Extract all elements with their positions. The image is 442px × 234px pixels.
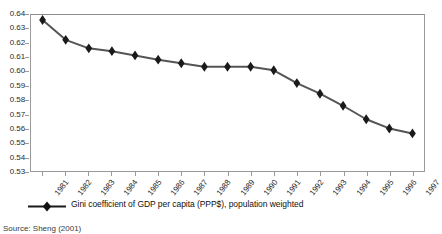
x-axis-tick-mark [320, 172, 321, 176]
x-axis-tick-mark [413, 172, 414, 176]
data-point-marker [109, 46, 116, 56]
data-point-marker [270, 65, 277, 75]
x-axis-tick-mark [181, 172, 182, 176]
x-axis-tick-mark [297, 172, 298, 176]
y-axis-tick-label: 0.63 [10, 24, 25, 32]
x-axis-tick-mark [135, 172, 136, 176]
chart-legend: Gini coefficient of GDP per capita (PPP$… [28, 198, 303, 209]
x-axis-tick-mark [274, 172, 275, 176]
y-axis-tick-mark [25, 158, 29, 159]
x-axis-tick-label: 1995 [378, 178, 396, 197]
y-axis-tick-mark [25, 129, 29, 130]
x-axis-tick-label: 1997 [424, 178, 442, 197]
y-axis-tick-mark [25, 86, 29, 87]
x-axis-tick-label: 1985 [145, 178, 163, 197]
y-axis-tick-label: 0.59 [10, 82, 25, 90]
y-axis-tick-mark [25, 43, 29, 44]
x-axis-tick-mark [65, 172, 66, 176]
x-axis-tick-label: 1996 [401, 178, 419, 197]
legend-marker-icon [28, 198, 66, 209]
x-axis-tick-mark [42, 172, 43, 176]
x-axis-tick-mark [158, 172, 159, 176]
data-point-marker [155, 55, 162, 65]
y-axis-tick-label: 0.62 [10, 39, 25, 47]
y-axis-tick-mark [25, 71, 29, 72]
data-point-marker [340, 101, 347, 111]
x-axis-tick-mark [390, 172, 391, 176]
y-axis-tick-label: 0.58 [10, 96, 25, 104]
x-axis-tick-mark [251, 172, 252, 176]
x-axis-tick-label: 1988 [215, 178, 233, 197]
data-point-marker [62, 35, 69, 45]
data-point-marker [178, 58, 185, 68]
legend-entry-label: Gini coefficient of GDP per capita (PPP$… [71, 199, 303, 209]
x-axis-tick-label: 1994 [354, 178, 372, 197]
data-point-marker [224, 62, 231, 72]
data-point-marker [386, 124, 393, 134]
x-axis-tick-label: 1981 [52, 178, 70, 197]
plot-area [30, 14, 425, 172]
x-axis-tick-mark [367, 172, 368, 176]
data-point-marker [39, 15, 46, 25]
data-point-marker [409, 128, 416, 138]
x-axis-tick-label: 1990 [261, 178, 279, 197]
y-axis-tick-mark [25, 143, 29, 144]
data-point-marker [247, 62, 254, 72]
y-axis-tick-label: 0.64 [10, 10, 25, 18]
x-axis-tick-mark [344, 172, 345, 176]
x-axis-tick-mark [228, 172, 229, 176]
data-point-marker [317, 89, 324, 99]
x-axis-tick-mark [88, 172, 89, 176]
x-axis-tick-label: 1989 [238, 178, 256, 197]
x-axis-tick-label: 1984 [122, 178, 140, 197]
x-axis-tick-label: 1983 [99, 178, 117, 197]
data-point-marker [363, 114, 370, 124]
y-axis-tick-label: 0.57 [10, 111, 25, 119]
y-axis-tick-label: 0.54 [10, 154, 25, 162]
y-axis-tick-mark [25, 115, 29, 116]
series-polyline [43, 20, 413, 133]
y-axis-tick-label: 0.55 [10, 139, 25, 147]
x-axis-tick-label: 1982 [76, 178, 94, 197]
x-axis-tick-label: 1986 [168, 178, 186, 197]
y-axis-tick-label: 0.61 [10, 53, 25, 61]
y-axis-tick-mark [25, 28, 29, 29]
x-axis-tick-label: 1991 [285, 178, 303, 197]
x-axis-tick-label: 1992 [308, 178, 326, 197]
source-note: Source: Sheng (2001) [3, 224, 81, 234]
x-axis-tick-mark [204, 172, 205, 176]
y-axis-tick-mark [25, 57, 29, 58]
y-axis-tick-mark [25, 14, 29, 15]
x-axis-tick-mark [111, 172, 112, 176]
y-axis-tick-mark [25, 172, 29, 173]
data-point-marker [293, 78, 300, 88]
y-axis-tick-label: 0.60 [10, 67, 25, 75]
x-axis-tick-label: 1993 [331, 178, 349, 197]
data-point-marker [132, 50, 139, 60]
x-axis-tick-label: 1987 [192, 178, 210, 197]
y-axis: 0.640.630.620.610.600.590.580.570.560.55… [0, 0, 28, 180]
data-point-marker [201, 62, 208, 72]
y-axis-tick-label: 0.53 [10, 168, 25, 176]
series-line-gini [31, 15, 424, 171]
y-axis-tick-mark [25, 100, 29, 101]
data-point-marker [85, 43, 92, 53]
y-axis-tick-label: 0.56 [10, 125, 25, 133]
